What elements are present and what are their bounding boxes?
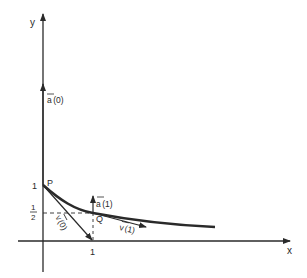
point-Q-label: Q — [96, 214, 103, 224]
vector-v0-label: v(0) — [54, 213, 70, 232]
x-axis-label: x — [287, 245, 292, 256]
vector-a0-label: a(0) — [47, 95, 64, 105]
y-tick-half-numerator: 1 — [31, 203, 36, 212]
vector-v1-label: v(1) — [119, 222, 137, 235]
y-tick-half-denominator: 2 — [31, 213, 36, 222]
y-axis-label: y — [30, 17, 35, 28]
motion-diagram: x y a(0) v(0) a(1) v(1) P Q 1 1 2 1 — [0, 0, 307, 278]
x-tick-one: 1 — [90, 247, 95, 257]
trajectory-curve — [43, 185, 215, 227]
y-tick-one: 1 — [32, 181, 37, 191]
point-P-label: P — [47, 178, 53, 188]
vector-a1-label: a(1) — [96, 199, 113, 209]
vector-v0 — [43, 185, 92, 240]
